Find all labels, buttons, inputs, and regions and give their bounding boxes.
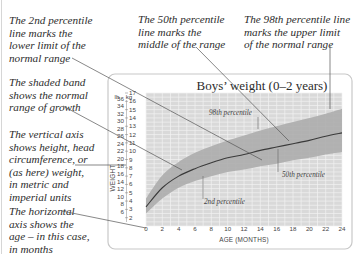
label-98th-percentile: 98th percentile: [209, 109, 253, 117]
x-tick-label: 24: [339, 225, 346, 232]
lb-tick-label: 30: [117, 117, 124, 124]
kg-tick-label: 16: [129, 97, 136, 104]
x-tick-label: 0: [144, 225, 148, 232]
x-tick-label: 10: [224, 225, 231, 232]
kg-tick-label: 4: [129, 197, 133, 204]
x-tick-label: 20: [306, 225, 313, 232]
lb-tick-label: 20: [117, 155, 124, 162]
kg-tick-label: 2: [129, 214, 133, 221]
x-tick-label: 14: [257, 225, 264, 232]
y-axis-label: WEIGHT: [109, 165, 116, 192]
lb-tick-label: 36: [117, 95, 124, 102]
lb-tick-label: 8: [121, 200, 125, 207]
lb-tick-label: 32: [117, 110, 124, 117]
lb-tick-label: 18: [117, 162, 124, 169]
kg-tick-label: 13: [129, 122, 136, 129]
lb-tick-label: 24: [117, 140, 124, 147]
lb-tick-label: 28: [117, 125, 124, 132]
kg-tick-label: 7: [129, 172, 133, 179]
x-tick-label: 16: [273, 225, 280, 232]
kg-tick-label: 9: [129, 156, 133, 163]
x-tick-label: 8: [210, 225, 214, 232]
lb-tick-label: 10: [117, 193, 124, 200]
x-tick-label: 4: [177, 225, 181, 232]
x-tick-label: 18: [290, 225, 297, 232]
kg-tick-label: 12: [129, 131, 136, 138]
lb-tick-label: 34: [117, 102, 124, 109]
x-tick-label: 6: [193, 225, 197, 232]
label-50th-percentile: 50th percentile: [282, 171, 326, 179]
lb-tick-label: 16: [117, 170, 124, 177]
kg-tick-label: 14: [129, 114, 136, 121]
kg-tick-label: 8: [129, 164, 133, 171]
label-2nd-percentile: 2nd percentile: [204, 198, 246, 206]
lb-tick-label: 6: [121, 208, 125, 215]
kg-tick-label: 6: [129, 180, 133, 187]
kg-tick-label: 15: [129, 106, 136, 113]
kg-tick-label: 17: [129, 89, 136, 96]
x-tick-label: 2: [161, 225, 165, 232]
kg-tick-label: 10: [129, 147, 136, 154]
kg-tick-label: 3: [129, 205, 133, 212]
lb-tick-label: 12: [117, 185, 124, 192]
kg-tick-label: 5: [129, 189, 133, 196]
x-axis-label: AGE (MONTHS): [219, 236, 269, 244]
lb-tick-label: 22: [117, 147, 124, 154]
growth-chart: Boys’ weight (0–2 years) lb kg 171615141…: [0, 0, 355, 254]
x-tick-label: 22: [322, 225, 329, 232]
lb-tick-label: 14: [117, 178, 124, 185]
chart-title: Boys’ weight (0–2 years): [197, 78, 328, 93]
x-tick-label: 12: [241, 225, 248, 232]
